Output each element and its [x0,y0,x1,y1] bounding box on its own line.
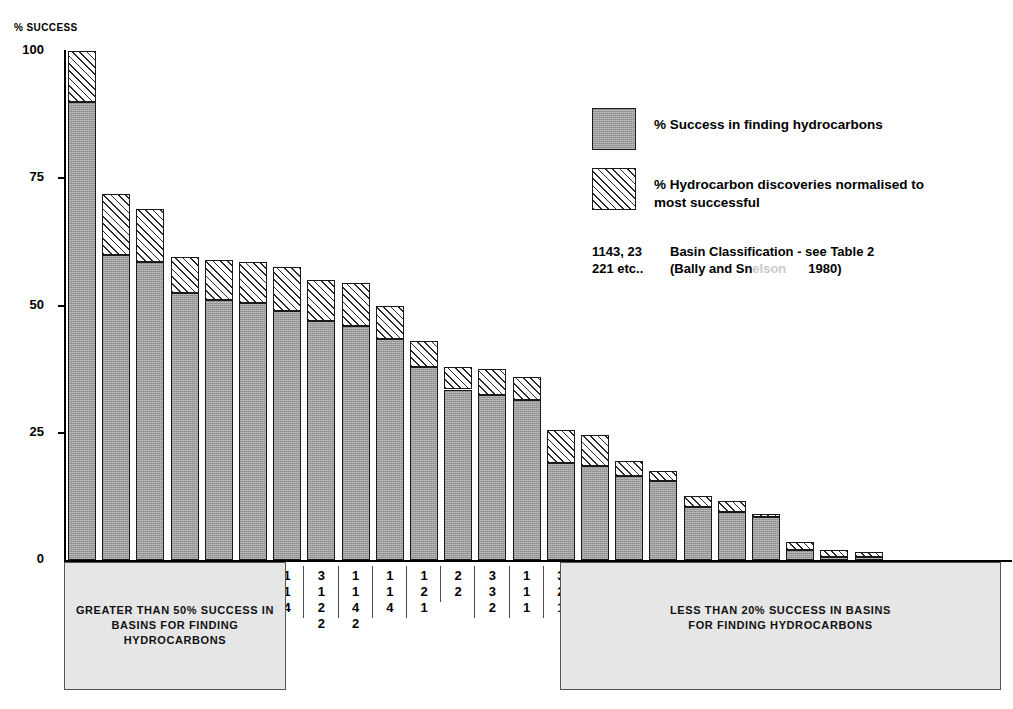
category-label-10-digit-0: 1 [410,568,438,584]
bar-9-hatch-segment [376,306,404,339]
category-label-7-digit-3: 2 [307,616,335,632]
category-label-12-digit-1: 3 [478,584,506,600]
legend-note-line1: Basin Classification - see Table 2 [670,243,874,260]
bar-11-solid-segment [444,390,472,561]
legend-note-line2: (Bally and Snelson1980) [670,260,842,277]
category-label-11-digit-1: 2 [444,584,472,600]
category-label-12-digit-0: 3 [478,568,506,584]
bar-22 [820,550,848,560]
category-label-8: 1142 [342,568,370,632]
bar-23 [855,552,883,560]
bar-18-hatch-segment [684,496,712,506]
category-label-10-digit-1: 2 [410,584,438,600]
bar-8 [342,283,370,560]
bar-21-solid-segment [786,550,814,560]
bar-3-solid-segment [171,293,199,560]
bar-19-hatch-segment [718,501,746,511]
legend-note-codes: 1143, 23 221 etc.. [592,243,643,277]
category-label-9: 114 [376,568,404,616]
category-separator-11 [440,566,441,602]
legend-label-success: % Success in finding hydrocarbons [654,116,883,134]
bar-5-hatch-segment [239,262,267,303]
category-label-13-digit-1: 1 [513,584,541,600]
category-separator-7 [303,566,304,618]
bar-8-hatch-segment [342,283,370,326]
bar-6 [273,267,301,560]
category-label-11-digit-0: 2 [444,568,472,584]
category-separator-12 [474,566,475,618]
bar-4 [205,260,233,560]
category-label-8-digit-2: 4 [342,600,370,616]
bar-16-hatch-segment [615,461,643,476]
bar-1-hatch-segment [102,194,130,255]
bar-2-solid-segment [136,262,164,560]
bar-22-solid-segment [820,557,848,560]
bar-11 [444,367,472,560]
bar-18 [684,496,712,560]
y-tick-mark-25 [58,432,65,434]
bar-19-solid-segment [718,512,746,560]
bar-15 [581,435,609,560]
bar-13 [513,377,541,560]
y-tick-label-25: 25 [0,424,44,439]
legend-item-success: % Success in finding hydrocarbons [592,108,1012,168]
bar-7-hatch-segment [307,280,335,321]
bar-7-solid-segment [307,321,335,560]
group-box-high-success: GREATER THAN 50% SUCCESS IN BASINS FOR F… [64,562,286,690]
bar-21-hatch-segment [786,542,814,550]
bar-14 [547,430,575,560]
bar-2 [136,209,164,560]
category-separator-10 [406,566,407,618]
chart-root: % SUCCESS 1007550250 1143232214122212111… [0,0,1013,709]
bar-10-solid-segment [410,367,438,560]
y-tick-label-75: 75 [0,169,44,184]
y-tick-mark-75 [58,177,65,179]
bar-17-solid-segment [649,481,677,560]
bar-20-solid-segment [752,517,780,560]
bar-1 [102,194,130,560]
category-label-11: 22 [444,568,472,600]
bar-0 [68,51,96,560]
group-box-high-line1: GREATER THAN 50% SUCCESS IN [65,603,285,618]
bar-0-solid-segment [68,102,96,560]
bar-5 [239,262,267,560]
bar-2-hatch-segment [136,209,164,262]
legend-label-normalised: % Hydrocarbon discoveries normalised to … [654,176,924,212]
bar-16-solid-segment [615,476,643,560]
y-tick-mark-50 [58,305,65,307]
legend-note-line2-suffix: 1980) [808,261,841,276]
group-box-low-success: LESS THAN 20% SUCCESS IN BASINS FOR FIND… [560,562,1001,690]
bar-10 [410,341,438,560]
bar-9-solid-segment [376,339,404,560]
bar-15-hatch-segment [581,435,609,466]
category-label-13-digit-2: 1 [513,600,541,616]
bar-8-solid-segment [342,326,370,560]
category-label-8-digit-3: 2 [342,616,370,632]
legend-item-normalised: % Hydrocarbon discoveries normalised to … [592,168,1012,228]
legend-swatch-hatch-icon [592,168,636,210]
bar-12-hatch-segment [478,369,506,394]
legend-note-line2-prefix: (Bally and Sn [670,261,752,276]
category-label-13-digit-0: 1 [513,568,541,584]
category-label-8-digit-1: 1 [342,584,370,600]
category-label-7-digit-2: 2 [307,600,335,616]
legend: % Success in finding hydrocarbons % Hydr… [592,108,1012,228]
bar-13-hatch-segment [513,377,541,400]
bar-6-solid-segment [273,311,301,560]
group-box-high-line2: BASINS FOR FINDING HYDROCARBONS [65,618,285,648]
group-box-low-line1: LESS THAN 20% SUCCESS IN BASINS [561,603,1000,618]
category-label-9-digit-2: 4 [376,600,404,616]
bar-7 [307,280,335,560]
category-label-7-digit-1: 1 [307,584,335,600]
bar-12 [478,369,506,560]
category-label-12: 332 [478,568,506,616]
category-label-10-digit-2: 1 [410,600,438,616]
category-separator-14 [543,566,544,618]
bar-14-hatch-segment [547,430,575,463]
bar-23-solid-segment [855,557,883,560]
category-label-7-digit-0: 3 [307,568,335,584]
bar-18-solid-segment [684,507,712,560]
category-label-8-digit-0: 1 [342,568,370,584]
bar-10-hatch-segment [410,341,438,366]
bar-14-solid-segment [547,463,575,560]
